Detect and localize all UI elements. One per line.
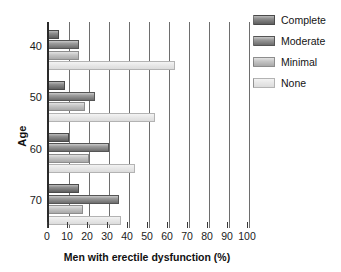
x-tick-mark <box>247 222 248 228</box>
bar <box>49 216 121 225</box>
chart-figure: Age 40506070 0102030405060708090100 Men … <box>0 0 341 272</box>
x-tick-label: 80 <box>201 230 213 242</box>
bar <box>49 113 155 122</box>
x-tick-label: 90 <box>221 230 233 242</box>
legend-swatch <box>253 57 275 67</box>
bar <box>49 133 69 142</box>
bar <box>49 164 135 173</box>
x-tick-mark <box>167 222 168 228</box>
y-tick-label: 50 <box>30 91 42 103</box>
x-tick-label: 10 <box>61 230 73 242</box>
bar-group <box>49 177 247 229</box>
x-tick-mark <box>227 222 228 228</box>
x-tick-mark <box>147 222 148 228</box>
bar <box>49 61 175 70</box>
x-tick-mark <box>207 222 208 228</box>
bar <box>49 143 109 152</box>
x-tick-label: 20 <box>81 230 93 242</box>
legend-item: Moderate <box>253 32 339 50</box>
x-tick-label: 60 <box>161 230 173 242</box>
x-tick-mark <box>127 222 128 228</box>
x-tick-label: 70 <box>181 230 193 242</box>
bar <box>49 30 59 39</box>
x-tick-label: 100 <box>238 230 256 242</box>
legend-label: Moderate <box>281 35 325 47</box>
legend-item: None <box>253 74 339 92</box>
x-tick-mark <box>107 222 108 228</box>
x-tick-label: 40 <box>121 230 133 242</box>
legend-label: Minimal <box>281 56 317 68</box>
y-tick-label: 60 <box>30 143 42 155</box>
x-tick-label: 0 <box>44 230 50 242</box>
bar <box>49 184 79 193</box>
bar-group <box>49 22 247 74</box>
legend-item: Minimal <box>253 53 339 71</box>
bar <box>49 51 79 60</box>
legend-item: Complete <box>253 11 339 29</box>
legend-label: None <box>281 77 306 89</box>
y-tick-label: 40 <box>30 40 42 52</box>
x-tick-label: 30 <box>101 230 113 242</box>
bar <box>49 102 85 111</box>
chart-legend: CompleteModerateMinimalNone <box>253 11 339 95</box>
bar <box>49 205 83 214</box>
bar-group <box>49 74 247 126</box>
x-axis-title: Men with erectile dysfunction (%) <box>47 251 247 263</box>
legend-swatch <box>253 36 275 46</box>
legend-swatch <box>253 78 275 88</box>
x-axis: 0102030405060708090100 <box>47 228 247 229</box>
bar <box>49 195 119 204</box>
x-tick-mark <box>47 222 48 228</box>
x-tick-mark <box>187 222 188 228</box>
x-tick-mark <box>87 222 88 228</box>
plot-area: 40506070 <box>47 22 247 228</box>
x-tick-label: 50 <box>141 230 153 242</box>
y-tick-label: 70 <box>30 194 42 206</box>
bar-group <box>49 125 247 177</box>
bar <box>49 92 95 101</box>
legend-swatch <box>253 15 275 25</box>
y-axis-title: Age <box>16 125 28 146</box>
bar <box>49 40 79 49</box>
gridline <box>249 22 250 228</box>
bar <box>49 154 89 163</box>
bar <box>49 81 65 90</box>
x-tick-mark <box>67 222 68 228</box>
legend-label: Complete <box>281 14 326 26</box>
